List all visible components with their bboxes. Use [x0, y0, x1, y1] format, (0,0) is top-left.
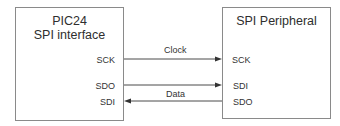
mosi-arrow-icon [215, 83, 222, 88]
clock-arrow-icon [215, 57, 222, 62]
connection-wires [0, 0, 340, 126]
miso-arrow-icon [124, 99, 131, 104]
clock-label: Clock [164, 45, 187, 55]
data-label: Data [166, 89, 185, 99]
